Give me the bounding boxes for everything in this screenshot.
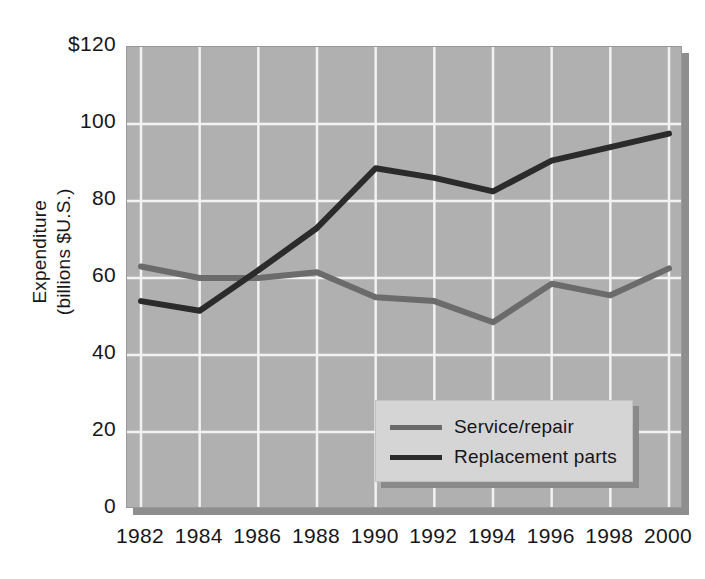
legend-swatch-service-repair — [390, 425, 442, 430]
y-axis-tick-labels: $120100806040200 — [20, 0, 116, 579]
series-line-replacement-parts — [141, 134, 669, 311]
y-tick-label-20: 20 — [30, 417, 116, 441]
y-tick-label-120: $120 — [30, 32, 116, 56]
y-tick-label-100: 100 — [30, 109, 116, 133]
y-tick-label-80: 80 — [30, 186, 116, 210]
legend-item-service-repair: Service/repair — [390, 412, 632, 442]
x-axis-tick-labels: 1982198419861988199019921994199619982000 — [126, 524, 682, 564]
y-tick-label-60: 60 — [30, 263, 116, 287]
chart-legend: Service/repair Replacement parts — [375, 400, 633, 482]
x-tick-label-2000: 2000 — [633, 524, 703, 548]
legend-label-replacement-parts: Replacement parts — [454, 446, 617, 468]
y-tick-label-0: 0 — [30, 494, 116, 518]
legend-label-service-repair: Service/repair — [454, 416, 574, 438]
legend-item-replacement-parts: Replacement parts — [390, 442, 632, 472]
expenditure-line-chart: Expenditure (billions $U.S.) $1201008060… — [0, 0, 705, 579]
legend-swatch-replacement-parts — [390, 455, 442, 460]
y-tick-label-40: 40 — [30, 340, 116, 364]
